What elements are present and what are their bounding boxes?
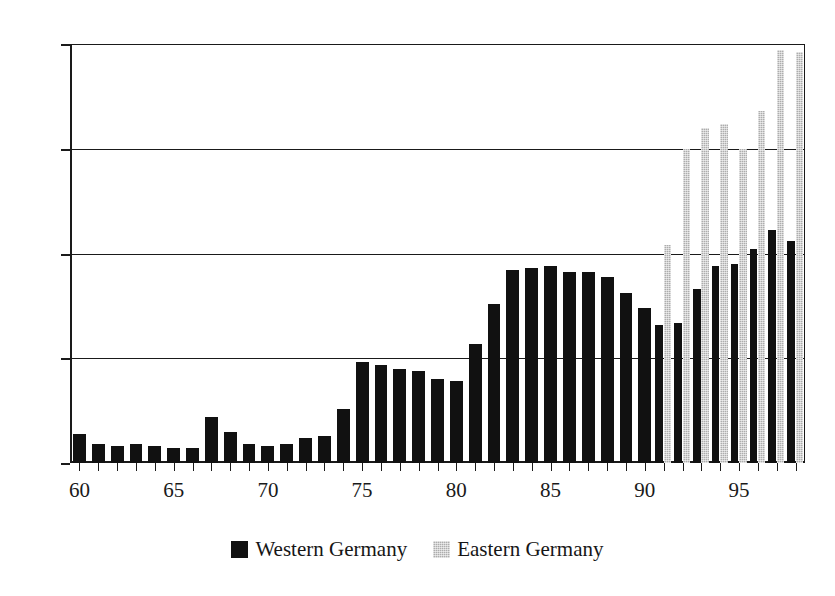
- bar-west-64: [148, 446, 161, 463]
- x-tick-mark-62: [117, 463, 118, 471]
- bar-west-67: [205, 417, 218, 463]
- bar-west-68: [224, 432, 237, 463]
- bar-west-80: [450, 381, 463, 463]
- x-tick-mark-71: [287, 463, 288, 471]
- y-tick-mark-10: [61, 254, 70, 256]
- x-tick-mark-67: [211, 463, 212, 471]
- x-tick-mark-73: [324, 463, 325, 471]
- x-axis-label-70: 70: [257, 480, 278, 501]
- x-tick-mark-90: [645, 463, 646, 471]
- x-tick-mark-81: [475, 463, 476, 471]
- bar-west-84: [525, 268, 538, 463]
- bar-west-69: [243, 444, 256, 463]
- bar-west-87: [582, 272, 595, 463]
- x-axis-label-80: 80: [446, 480, 467, 501]
- bar-west-97: [768, 230, 776, 463]
- x-tick-mark-87: [588, 463, 589, 471]
- bar-west-61: [92, 444, 105, 463]
- x-tick-mark-92: [683, 463, 684, 471]
- bar-west-62: [111, 446, 124, 463]
- bar-west-90: [638, 308, 651, 463]
- x-tick-mark-95: [739, 463, 740, 471]
- x-tick-mark-86: [569, 463, 570, 471]
- bar-east-95: [739, 149, 747, 463]
- bar-east-91: [664, 245, 672, 463]
- bar-east-97: [777, 50, 785, 463]
- bar-east-96: [758, 111, 766, 463]
- bar-west-83: [506, 270, 519, 463]
- bar-west-95: [731, 264, 739, 463]
- bar-west-92: [674, 323, 682, 463]
- x-axis-label-75: 75: [352, 480, 373, 501]
- x-tick-mark-80: [456, 463, 457, 471]
- x-tick-mark-88: [607, 463, 608, 471]
- y-tick-mark-15: [61, 149, 70, 151]
- y-tick-mark-5: [61, 358, 70, 360]
- x-tick-mark-89: [626, 463, 627, 471]
- bar-west-63: [130, 444, 143, 463]
- x-tick-mark-72: [306, 463, 307, 471]
- bar-west-88: [601, 277, 614, 463]
- x-tick-mark-61: [98, 463, 99, 471]
- bar-west-94: [712, 266, 720, 463]
- x-tick-mark-94: [720, 463, 721, 471]
- y-tick-mark-0: [61, 463, 70, 465]
- x-tick-mark-70: [268, 463, 269, 471]
- bar-west-98: [787, 241, 795, 463]
- unemployment-rate-bar-chart: 05101520 6065707580859095 Western German…: [0, 0, 835, 596]
- x-tick-mark-75: [362, 463, 363, 471]
- x-tick-mark-83: [513, 463, 514, 471]
- bar-west-96: [750, 249, 758, 463]
- bar-west-91: [655, 325, 663, 463]
- chart-legend: Western GermanyEastern Germany: [0, 539, 835, 560]
- x-axis-label-95: 95: [729, 480, 750, 501]
- bar-west-72: [299, 438, 312, 463]
- x-axis-label-90: 90: [634, 480, 655, 501]
- legend-item-eastern-germany[interactable]: Eastern Germany: [433, 539, 603, 560]
- plot-area: 05101520: [70, 44, 805, 463]
- bar-east-92: [683, 149, 691, 463]
- gray-square-icon: [433, 541, 450, 558]
- bar-west-77: [393, 369, 406, 463]
- bar-west-76: [375, 365, 388, 463]
- x-tick-mark-79: [438, 463, 439, 471]
- x-tick-mark-78: [419, 463, 420, 471]
- x-tick-mark-93: [701, 463, 702, 471]
- x-tick-mark-63: [136, 463, 137, 471]
- bar-west-73: [318, 436, 331, 463]
- x-tick-mark-77: [400, 463, 401, 471]
- bar-east-94: [720, 124, 728, 463]
- legend-item-western-germany[interactable]: Western Germany: [231, 539, 407, 560]
- bar-west-60: [73, 434, 86, 463]
- x-tick-mark-66: [193, 463, 194, 471]
- x-axis-label-85: 85: [540, 480, 561, 501]
- y-tick-mark-20: [61, 44, 70, 46]
- x-tick-mark-84: [532, 463, 533, 471]
- bar-west-78: [412, 371, 425, 463]
- legend-label: Western Germany: [255, 539, 407, 560]
- x-tick-mark-82: [494, 463, 495, 471]
- bar-east-98: [796, 52, 804, 463]
- x-tick-mark-85: [551, 463, 552, 471]
- x-tick-mark-65: [174, 463, 175, 471]
- x-tick-mark-98: [796, 463, 797, 471]
- x-tick-mark-97: [777, 463, 778, 471]
- x-tick-mark-64: [155, 463, 156, 471]
- bar-west-75: [356, 362, 369, 463]
- bar-west-81: [469, 344, 482, 463]
- x-tick-mark-74: [343, 463, 344, 471]
- x-tick-mark-68: [230, 463, 231, 471]
- bar-west-71: [280, 444, 293, 463]
- bar-west-86: [563, 272, 576, 463]
- x-axis-label-60: 60: [69, 480, 90, 501]
- x-tick-mark-60: [79, 463, 80, 471]
- bar-west-85: [544, 266, 557, 463]
- x-axis-label-65: 65: [163, 480, 184, 501]
- bar-west-70: [261, 446, 274, 463]
- x-tick-mark-69: [249, 463, 250, 471]
- bar-west-65: [167, 448, 180, 463]
- x-tick-mark-76: [381, 463, 382, 471]
- bar-west-74: [337, 409, 350, 463]
- x-tick-mark-96: [758, 463, 759, 471]
- bar-west-93: [693, 289, 701, 463]
